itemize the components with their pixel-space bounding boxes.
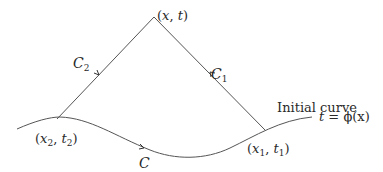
characteristics-diagram: (x, t) C2 C1 (x2, t2) (x1, t1) C Initial… xyxy=(0,0,383,172)
right-point-label: (x1, t1) xyxy=(247,141,289,158)
characteristic-c1 xyxy=(154,17,265,130)
c1-label: C1 xyxy=(211,66,227,84)
curve-c-label: C xyxy=(139,155,150,171)
left-point-label: (x2, t2) xyxy=(35,131,77,148)
c2-label: C2 xyxy=(73,55,89,73)
initial-curve-equation: t = ϕ(x) xyxy=(319,109,370,124)
apex-label: (x, t) xyxy=(157,8,188,23)
arrow-c2-icon xyxy=(94,70,99,75)
characteristic-c2 xyxy=(57,17,154,119)
